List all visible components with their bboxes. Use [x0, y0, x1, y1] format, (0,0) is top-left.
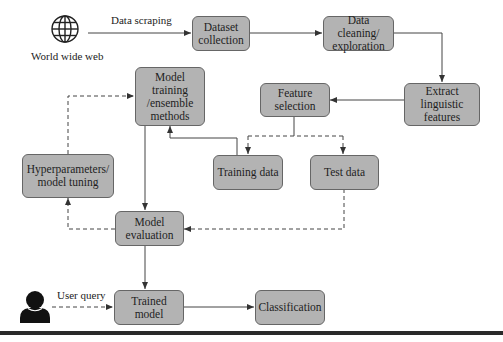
- node-extract-features: Extract linguistic features: [404, 83, 480, 126]
- node-classification: Classification: [255, 290, 325, 325]
- node-dataset-collection: Dataset collection: [192, 16, 250, 51]
- source-label: World wide web: [31, 50, 103, 62]
- node-hyperparameters: Hyperparameters/ model tuning: [22, 154, 114, 198]
- user-icon: [19, 290, 51, 323]
- node-training-data: Training data: [213, 155, 283, 190]
- node-model-evaluation: Model evaluation: [115, 211, 184, 246]
- node-feature-selection: Feature selection: [260, 83, 330, 117]
- edge-label-query: User query: [57, 289, 106, 301]
- node-test-data: Test data: [310, 155, 379, 190]
- node-data-cleaning: Data cleaning/ exploration: [323, 16, 394, 51]
- globe-icon: [50, 14, 80, 44]
- edge-label-scraping: Data scraping: [111, 14, 172, 26]
- node-trained-model: Trained model: [114, 290, 184, 325]
- node-model-training: Model training /ensemble methods: [135, 67, 205, 126]
- bottom-divider: [0, 331, 503, 335]
